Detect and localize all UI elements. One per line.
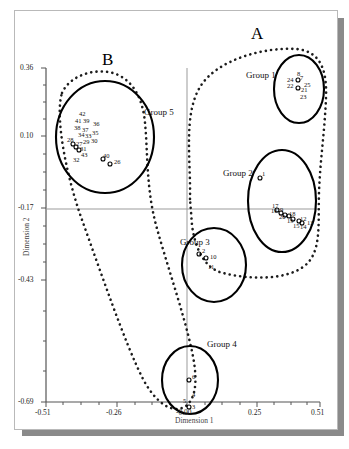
- y-tick-label-4: -0.69: [18, 398, 34, 406]
- x-tick-label-1: -0.26: [106, 409, 122, 417]
- point-label-26: 26: [114, 159, 121, 166]
- point-label-23: 23: [300, 94, 307, 101]
- point-label-39: 39: [83, 118, 90, 125]
- y-tick-label-1: 0.10: [20, 132, 33, 140]
- x-axis-title: Dimension 1: [175, 417, 214, 425]
- y-tick-label-2: -0.17: [18, 204, 34, 212]
- point-label-10: 10: [210, 254, 217, 261]
- scatter-plot: A B Group 1 Group 2 Group 3 Group 4 Grou…: [15, 11, 337, 429]
- point-label-1: 1: [262, 171, 265, 178]
- point-label-11: 11: [208, 264, 214, 271]
- point-label-16: 16: [271, 208, 278, 215]
- y-axis-title: Dimension 2: [23, 217, 31, 256]
- point-label-4: 4: [192, 392, 195, 399]
- point-label-2: 2: [202, 248, 205, 255]
- point-label-35: 35: [92, 130, 99, 137]
- point-label-3: 3: [192, 404, 195, 411]
- point-label-6: 6: [192, 374, 195, 381]
- point-label-32: 32: [73, 157, 80, 164]
- point-label-43: 43: [81, 152, 88, 159]
- point-label-14: 14: [300, 224, 307, 231]
- group-label-5: Group 5: [144, 108, 174, 117]
- group-4-ellipse: [162, 346, 218, 414]
- x-tick-label-4: 0.51: [311, 409, 324, 417]
- group-2-ellipse: [248, 150, 316, 252]
- y-tick-label-3: -0.43: [18, 276, 34, 284]
- supergroup-label-b: B: [102, 51, 113, 68]
- group-label-1: Group 1: [246, 71, 276, 80]
- point-label-22: 22: [287, 83, 294, 90]
- point-label-28: 28: [67, 137, 74, 144]
- x-tick-label-3: 0.25: [248, 409, 261, 417]
- point-label-30: 30: [91, 138, 98, 145]
- point-label-40: 40: [103, 153, 110, 160]
- group-label-4: Group 4: [207, 340, 237, 349]
- point-label-20: 20: [279, 214, 286, 221]
- supergroup-label-a: A: [251, 25, 263, 42]
- group-label-3: Group 3: [180, 238, 210, 247]
- group-label-2: Group 2: [223, 169, 253, 178]
- point-label-12: 12: [300, 216, 307, 223]
- point-label-15: 15: [293, 223, 300, 230]
- figure-root: A B Group 1 Group 2 Group 3 Group 4 Grou…: [0, 0, 349, 449]
- point-label-7: 7: [300, 75, 303, 82]
- point-label-5: 5: [183, 398, 186, 405]
- point-label-36: 36: [93, 121, 100, 128]
- x-tick-label-0: -0.51: [35, 409, 51, 417]
- page-sheet: A B Group 1 Group 2 Group 3 Group 4 Grou…: [14, 10, 338, 430]
- y-axis-ticks: [41, 68, 46, 402]
- y-tick-label-0: 0.36: [20, 64, 33, 72]
- point-label-13: 13: [307, 220, 314, 227]
- group-1-ellipse: [274, 55, 324, 123]
